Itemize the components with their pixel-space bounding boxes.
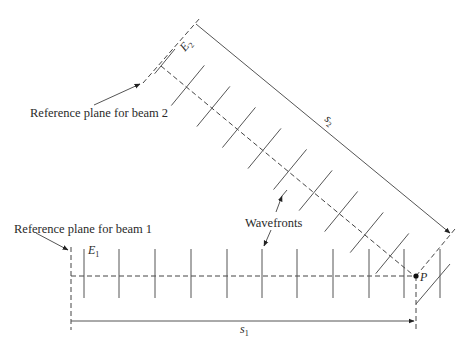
ref-plane-beam2-label: Reference plane for beam 2 [30, 106, 168, 120]
point-p-label: P [419, 270, 428, 284]
beam2-wavefront [325, 191, 358, 231]
beam2-wavefront-e2 [155, 49, 175, 74]
beam2-wavefront [222, 107, 255, 147]
beam2-wavefronts [155, 49, 450, 304]
e2-label: E2 [176, 36, 196, 56]
wavefronts-arrow-down [264, 230, 271, 246]
wavefronts-arrow-up-tail [282, 190, 287, 196]
ref-plane-beam1-label: Reference plane for beam 1 [14, 222, 152, 236]
beam2-wavefront [299, 170, 332, 210]
e1-label: E1 [87, 243, 99, 259]
s2-dimension-arrow [196, 24, 450, 233]
ref-plane-beam2-arrow [94, 84, 140, 105]
beam2-wavefront [274, 149, 307, 189]
beam1-wavefronts [84, 249, 440, 298]
s2-label: s2 [321, 111, 338, 129]
beam2-wavefront [197, 86, 230, 126]
wavefronts-arrow-up [276, 196, 282, 212]
s1-label: s1 [240, 322, 249, 338]
p-wavefront-dashed [416, 229, 455, 276]
beam2-wavefront [248, 128, 281, 168]
beam2-wavefront [171, 65, 204, 105]
beam2-axis [161, 66, 412, 274]
beam2-reference-plane [143, 18, 200, 83]
wavefronts-label: Wavefronts [245, 216, 302, 230]
point-p-marker [413, 273, 418, 278]
interference-diagram: Reference plane for beam 2 Reference pla… [0, 0, 466, 344]
